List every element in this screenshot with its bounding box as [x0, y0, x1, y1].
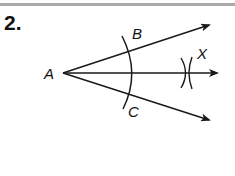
label-point-b: B: [132, 26, 142, 41]
angle-bisector-figure: [0, 0, 235, 176]
label-vertex-a: A: [44, 66, 54, 81]
label-point-x: X: [197, 46, 207, 61]
label-point-c: C: [128, 104, 139, 119]
